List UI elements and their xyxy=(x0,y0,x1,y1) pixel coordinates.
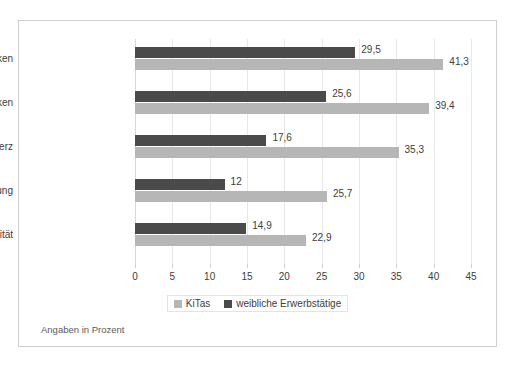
bar[interactable] xyxy=(135,47,355,58)
bar-group: 29,541,3 xyxy=(135,47,471,71)
legend-swatch-icon xyxy=(174,300,182,308)
bar-row: 41,3 xyxy=(135,59,471,70)
x-tick-mark xyxy=(210,264,211,268)
bar-group: 25,639,4 xyxy=(135,91,471,115)
bar-value-label: 22,9 xyxy=(312,232,331,243)
x-tick-mark xyxy=(471,264,472,268)
bar-value-label: 39,4 xyxy=(435,100,454,111)
x-tick-label: 45 xyxy=(465,271,476,282)
x-tick-mark xyxy=(322,264,323,268)
category-label: Rücken xyxy=(0,47,13,71)
x-tick-mark xyxy=(247,264,248,268)
legend-box: KiTasweibliche Erwerbstätige xyxy=(167,295,349,312)
bar-value-label: 25,7 xyxy=(333,188,352,199)
bar-value-label: 17,6 xyxy=(272,132,291,143)
bar[interactable] xyxy=(135,235,306,246)
bar-row: 25,7 xyxy=(135,191,471,202)
bar[interactable] xyxy=(135,59,443,70)
bar-group: 1225,7 xyxy=(135,179,471,203)
chart-legend: KiTasweibliche Erwerbstätige xyxy=(19,295,496,312)
x-tick-label: 40 xyxy=(428,271,439,282)
legend-item[interactable]: KiTas xyxy=(174,298,210,309)
category-label: Kopfschmerz xyxy=(0,135,13,159)
x-tick-mark xyxy=(284,264,285,268)
bar[interactable] xyxy=(135,135,266,146)
x-axis: 051015202530354045 xyxy=(135,264,471,286)
chart-frame: RückenSchulter-NackenKopfschmerzSchnelle… xyxy=(18,20,497,347)
plot-area: 29,541,325,639,417,635,31225,714,922,9 xyxy=(135,39,471,264)
x-tick-mark xyxy=(359,264,360,268)
legend-label: KiTas xyxy=(186,298,210,309)
bar-value-label: 25,6 xyxy=(332,88,351,99)
x-tick-mark xyxy=(434,264,435,268)
x-tick-label: 5 xyxy=(170,271,176,282)
x-tick-label: 20 xyxy=(279,271,290,282)
bar-row: 25,6 xyxy=(135,91,471,102)
x-tick-label: 0 xyxy=(132,271,138,282)
bar[interactable] xyxy=(135,103,429,114)
x-tick-mark xyxy=(396,264,397,268)
bar-row: 29,5 xyxy=(135,47,471,58)
legend-label: weibliche Erwerbstätige xyxy=(236,298,341,309)
x-tick-label: 15 xyxy=(241,271,252,282)
bar[interactable] xyxy=(135,191,327,202)
bar-group: 17,635,3 xyxy=(135,135,471,159)
bar[interactable] xyxy=(135,223,246,234)
bar-row: 12 xyxy=(135,179,471,190)
bar[interactable] xyxy=(135,147,399,158)
bar-row: 22,9 xyxy=(135,235,471,246)
bar-row: 39,4 xyxy=(135,103,471,114)
chart-footnote: Angaben in Prozent xyxy=(41,324,124,335)
legend-swatch-icon xyxy=(224,300,232,308)
bar-row: 35,3 xyxy=(135,147,471,158)
legend-item[interactable]: weibliche Erwerbstätige xyxy=(224,298,341,309)
bar[interactable] xyxy=(135,179,225,190)
gridline xyxy=(471,39,472,264)
bar-value-label: 35,3 xyxy=(405,144,424,155)
x-tick-label: 25 xyxy=(316,271,327,282)
x-tick-mark xyxy=(172,264,173,268)
bar-group: 14,922,9 xyxy=(135,223,471,247)
bar-value-label: 12 xyxy=(231,176,242,187)
x-tick-label: 30 xyxy=(353,271,364,282)
bar-value-label: 14,9 xyxy=(252,220,271,231)
bar-value-label: 41,3 xyxy=(449,56,468,67)
bar-value-label: 29,5 xyxy=(361,44,380,55)
x-tick-mark xyxy=(135,264,136,268)
bar-row: 14,9 xyxy=(135,223,471,234)
bar[interactable] xyxy=(135,91,326,102)
x-tick-label: 35 xyxy=(391,271,402,282)
category-label: Schulter-Nacken xyxy=(0,91,13,115)
category-label: Schnelle Ermüdung xyxy=(0,179,13,203)
category-label: Nervosität xyxy=(0,223,13,247)
x-tick-label: 10 xyxy=(204,271,215,282)
